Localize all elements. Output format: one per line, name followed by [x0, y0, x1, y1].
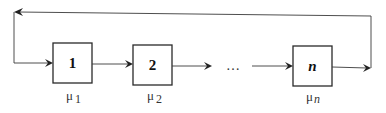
station-2-label: 2	[149, 57, 157, 73]
arrow-1-to-2	[92, 60, 133, 68]
station-1-label: 1	[69, 55, 77, 71]
station-2-rate: μ2	[147, 88, 162, 106]
queueing-network-diagram: 1 μ1 2 μ2 … n μn	[0, 0, 386, 113]
arrow-ellipsis-to-n	[252, 62, 293, 70]
station-2: 2 μ2	[133, 45, 172, 106]
station-1: 1 μ1	[53, 43, 92, 106]
station-n-rate: μn	[306, 89, 320, 106]
arrow-2-to-ellipsis	[172, 62, 212, 70]
arrow-out-of-station-n	[332, 64, 371, 72]
station-n: n μn	[293, 46, 332, 106]
feedback-line-left	[14, 12, 49, 63]
station-n-label: n	[308, 58, 316, 74]
ellipsis: …	[226, 58, 240, 73]
station-1-rate: μ1	[66, 88, 81, 106]
